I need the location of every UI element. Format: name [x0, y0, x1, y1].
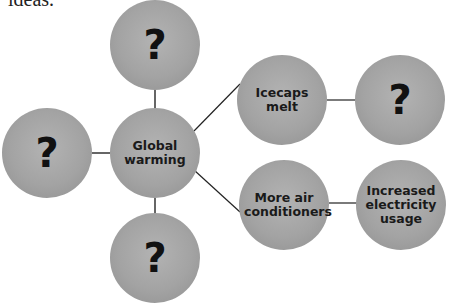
- node-label: Increased electricity usage: [365, 184, 437, 226]
- question-mark-icon: ?: [143, 25, 166, 65]
- question-mark-icon: ?: [35, 133, 58, 173]
- question-mark-icon: ?: [388, 80, 411, 120]
- question-mark-icon: ?: [143, 238, 166, 278]
- node-label: Global warming: [120, 139, 190, 167]
- node-label: Icecaps melt: [252, 86, 312, 114]
- node-more-air-conditioners: More air conditioners: [239, 160, 329, 250]
- node-label: More air conditioners: [244, 191, 324, 219]
- node-unknown-icecaps-effect: ?: [355, 55, 445, 145]
- node-unknown-left: ?: [2, 108, 92, 198]
- node-icecaps-melt: Icecaps melt: [237, 55, 327, 145]
- node-unknown-top: ?: [110, 0, 200, 90]
- node-global-warming: Global warming: [110, 108, 200, 198]
- node-increased-electricity-usage: Increased electricity usage: [356, 160, 446, 250]
- node-unknown-bottom: ?: [110, 213, 200, 303]
